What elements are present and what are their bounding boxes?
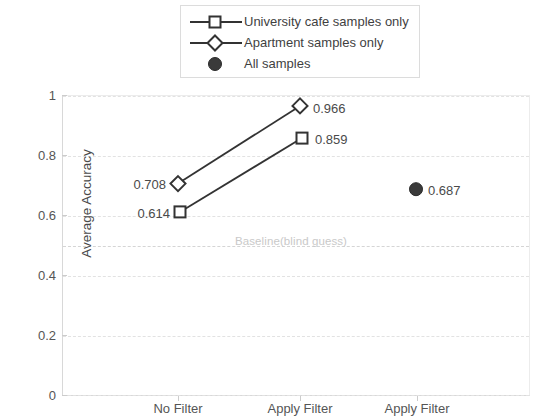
y-tick-label-1: 1	[10, 88, 56, 103]
legend-label-apartment: Apartment samples only	[244, 33, 383, 53]
baseline-annotation-label: Baseline(blind guess)	[235, 235, 347, 247]
y-tick-label-02: 0.2	[10, 328, 56, 343]
y-tick-mark-04	[62, 275, 67, 276]
x-tick-label-apply-filter-1: Apply Filter	[267, 401, 332, 416]
legend-circle-marker-icon	[188, 54, 244, 74]
legend-entry-all-samples[interactable]: All samples	[181, 53, 419, 74]
y-tick-mark-1	[62, 95, 67, 96]
legend-square-marker-icon	[188, 12, 244, 32]
y-tick-mark-06	[62, 215, 67, 216]
gridline-08	[63, 156, 529, 157]
legend-label-all-samples: All samples	[244, 54, 310, 74]
gridline-06	[63, 216, 529, 217]
gridline-0	[63, 395, 529, 396]
data-label-cafe-no-filter: 0.614	[137, 206, 170, 221]
chart-figure: Baseline(blind guess) 1 0.8 0.6 0.4 0.2 …	[0, 0, 538, 418]
gridline-04	[63, 276, 529, 277]
legend-entry-apartment[interactable]: Apartment samples only	[181, 32, 419, 53]
y-tick-mark-08	[62, 155, 67, 156]
chart-legend: University cafe samples only Apartment s…	[180, 5, 420, 78]
y-tick-label-04: 0.4	[10, 268, 56, 283]
gridline-02	[63, 336, 529, 337]
data-label-all-samples: 0.687	[428, 183, 461, 198]
plot-area: Baseline(blind guess)	[62, 95, 530, 396]
gridline-1	[63, 96, 529, 97]
y-tick-label-0: 0	[10, 388, 56, 403]
x-tick-label-apply-filter-2: Apply Filter	[384, 401, 449, 416]
legend-diamond-marker-icon	[188, 33, 244, 53]
data-label-apartment-apply-filter: 0.966	[313, 101, 346, 116]
legend-label-university-cafe: University cafe samples only	[244, 12, 409, 32]
y-tick-label-06: 0.6	[10, 208, 56, 223]
y-tick-mark-02	[62, 335, 67, 336]
data-label-cafe-apply-filter: 0.859	[315, 132, 348, 147]
data-label-apartment-no-filter: 0.708	[133, 177, 166, 192]
y-tick-mark-0	[62, 395, 67, 396]
y-tick-label-08: 0.8	[10, 148, 56, 163]
y-axis-title: Average Accuracy	[79, 114, 94, 294]
x-tick-label-no-filter: No Filter	[153, 401, 202, 416]
legend-entry-university-cafe[interactable]: University cafe samples only	[181, 11, 419, 32]
